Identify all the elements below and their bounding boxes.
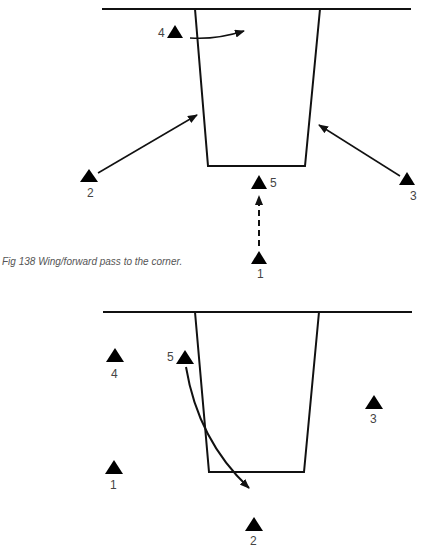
cut-arrow-2: [98, 115, 197, 173]
diagram-canvas: 4 2 3 5 1 4 5 3 1 2: [0, 0, 437, 555]
player-1-triangle: [251, 251, 267, 264]
figure-138: 4 2 3 5 1: [80, 9, 417, 281]
player-5-label: 5: [270, 176, 277, 190]
cut-arrow-3: [319, 125, 400, 176]
key-area: [195, 9, 320, 166]
player-2-triangle: [80, 169, 98, 182]
player-2-triangle: [245, 517, 263, 531]
player-5-label: 5: [167, 350, 174, 364]
player-3-label: 3: [370, 412, 377, 426]
player-5-triangle: [176, 350, 194, 364]
player-3-triangle: [399, 172, 415, 185]
key-area: [195, 312, 319, 472]
player-3-triangle: [365, 395, 383, 409]
player-4-label: 4: [158, 26, 165, 40]
player-1-label: 1: [257, 267, 264, 281]
player-4-triangle: [106, 348, 124, 362]
player-3-label: 3: [410, 189, 417, 203]
player-4-label: 4: [111, 367, 118, 381]
player-2-label: 2: [250, 534, 257, 548]
player-4-triangle: [167, 25, 183, 38]
player-1-label: 1: [110, 478, 117, 492]
figure-caption: Fig 138 Wing/forward pass to the corner.: [2, 256, 182, 267]
cut-arrow-5: [186, 367, 249, 488]
player-2-label: 2: [87, 186, 94, 200]
player-5-triangle: [251, 175, 267, 189]
figure-139: 4 5 3 1 2: [103, 312, 412, 548]
player-1-triangle: [105, 460, 123, 474]
